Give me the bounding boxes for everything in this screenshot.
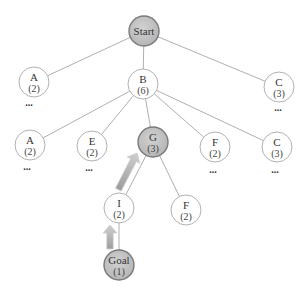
path-arrow-i-to-g — [112, 150, 143, 193]
node-a1: A(2)... — [19, 67, 49, 108]
node-cost: (2) — [113, 209, 125, 221]
node-cost: (3) — [147, 143, 159, 155]
node-goal: Goal(1) — [104, 250, 134, 280]
node-c2: C(3)... — [262, 132, 292, 175]
node-f1: F(2)... — [200, 132, 230, 175]
tree-svg: StartA(2)...B(6)C(3)...A(2)...E(2)...G(3… — [0, 0, 307, 297]
search-tree-diagram: StartA(2)...B(6)C(3)...A(2)...E(2)...G(3… — [0, 0, 307, 297]
ellipsis-more-children: ... — [271, 164, 279, 175]
node-cost: (2) — [86, 147, 98, 159]
node-cost: (2) — [28, 83, 40, 95]
node-cost: (3) — [273, 88, 285, 100]
node-label: I — [117, 197, 121, 209]
node-a2: A(2)... — [15, 130, 45, 172]
node-cost: (2) — [24, 146, 36, 158]
node-label: A — [30, 71, 38, 83]
node-label: Start — [134, 25, 155, 37]
node-g: G(3) — [138, 127, 168, 157]
node-cost: (6) — [137, 85, 149, 97]
path-arrow-goal-to-i — [103, 225, 117, 249]
edge-start-c1 — [158, 37, 265, 82]
node-cost: (1) — [113, 266, 125, 278]
node-label: F — [183, 199, 189, 211]
ellipsis-more-children: ... — [25, 97, 33, 108]
edge-g-f2 — [160, 155, 180, 196]
node-c1: C(3)... — [264, 72, 294, 113]
ellipsis-more-children: ... — [274, 102, 282, 113]
node-label: A — [26, 134, 34, 146]
node-label: C — [275, 76, 282, 88]
node-label: C — [273, 136, 280, 148]
node-i: I(2) — [104, 193, 134, 223]
edge-b-e — [102, 96, 134, 135]
ellipsis-more-children: ... — [23, 161, 31, 172]
node-label: E — [89, 135, 96, 147]
node-b: B(6) — [128, 69, 158, 99]
node-f2: F(2) — [171, 195, 201, 225]
edge-b-g — [146, 99, 151, 127]
ellipsis-more-children: ... — [85, 162, 93, 173]
node-label: Goal — [108, 254, 129, 266]
node-cost: (2) — [209, 148, 221, 160]
ellipsis-more-children: ... — [209, 164, 217, 175]
node-label: F — [212, 136, 218, 148]
edge-b-a2 — [43, 91, 130, 138]
nodes-layer: StartA(2)...B(6)C(3)...A(2)...E(2)...G(3… — [15, 16, 294, 280]
node-cost: (3) — [271, 148, 283, 160]
edge-start-a1 — [48, 37, 131, 75]
node-label: B — [139, 73, 146, 85]
node-label: G — [149, 131, 157, 143]
node-cost: (2) — [180, 211, 192, 223]
node-start: Start — [129, 16, 159, 46]
node-e: E(2)... — [77, 131, 107, 173]
